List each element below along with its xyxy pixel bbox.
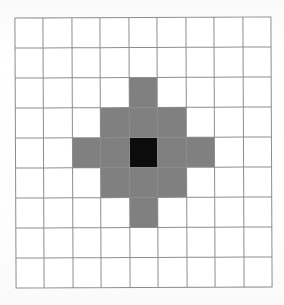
grid-cell-empty [129,18,157,47]
grid-cell-empty [158,18,186,47]
grid-cell-empty [44,18,72,47]
grid-cell-gray [130,198,158,227]
grid-cell-empty [45,228,73,257]
grid-cell-empty [102,198,130,227]
grid-cell-empty [186,108,214,137]
grid-cell-empty [44,48,72,77]
grid-cell-empty [73,258,101,287]
grid-cell-empty [159,228,187,257]
figure-canvas [0,0,284,305]
grid-cell-empty [73,228,101,257]
grid-cell-empty [73,108,101,137]
grid-cell-empty [216,258,244,287]
grid-cell-black [130,138,158,167]
grid-cell-empty [215,138,243,167]
grid-cell-empty [45,258,73,287]
grid-cell-empty [73,78,101,107]
grid-cell-empty [16,258,44,287]
grid-cell-empty [16,48,44,77]
grid-cell-empty [130,228,158,257]
grid-cell-empty [72,18,100,47]
grid-cell-empty [130,258,158,287]
grid-cell-empty [186,18,214,47]
grid-cell-empty [101,48,129,77]
grid-cell-gray [101,108,129,137]
grid-cell-gray [158,108,186,137]
grid-cell-empty [159,258,187,287]
grid-cell-empty [215,168,243,197]
lattice-grid [14,16,272,288]
grid-cell-empty [44,108,72,137]
grid-cell-gray [73,138,101,167]
grid-cell-empty [215,108,243,137]
grid-cell-empty [244,257,272,286]
grid-cell-empty [16,228,44,257]
grid-cell-empty [243,137,271,166]
grid-cell-empty [102,228,130,257]
grid-cell-empty [45,168,73,197]
grid-cell-empty [215,48,243,77]
grid-cell-empty [158,78,186,107]
grid-cell-empty [73,168,101,197]
grid-cell-empty [187,258,215,287]
grid-cell-empty [72,48,100,77]
grid-cell-gray [130,168,158,197]
grid-cell-gray [187,138,215,167]
grid-cell-gray [158,138,186,167]
grid-cell-empty [73,198,101,227]
grid-cell-gray [158,168,186,197]
grid-cell-gray [130,108,158,137]
grid-cell-empty [186,78,214,107]
grid-cell-empty [16,78,44,107]
grid-cell-empty [16,138,44,167]
grid-cell-empty [187,198,215,227]
grid-cell-empty [243,47,271,76]
grid-cell-empty [16,108,44,137]
grid-cell-gray [101,168,129,197]
grid-cell-empty [16,198,44,227]
grid-cell-empty [215,228,243,257]
grid-cell-empty [243,107,271,136]
grid-cell-empty [244,227,272,256]
grid-cell-empty [101,78,129,107]
grid-cell-empty [187,228,215,257]
grid-cell-empty [243,17,271,46]
grid-cell-empty [186,48,214,77]
grid-cell-empty [45,198,73,227]
grid-cell-gray [101,138,129,167]
grid-cell-empty [44,78,72,107]
grid-cell-empty [44,138,72,167]
grid-cell-gray [129,78,157,107]
grid-cell-empty [101,18,129,47]
grid-cell-empty [215,18,243,47]
grid-cell-empty [187,168,215,197]
grid-cell-empty [244,167,272,196]
grid-cell-empty [244,197,272,226]
grid-cell-empty [215,198,243,227]
grid-cell-empty [129,48,157,77]
grid-cell-empty [16,168,44,197]
grid-cell-empty [215,78,243,107]
grid-cell-empty [243,77,271,106]
grid-cell-empty [102,258,130,287]
grid-cell-empty [158,48,186,77]
grid-cell-empty [158,198,186,227]
grid-cell-empty [15,18,43,47]
